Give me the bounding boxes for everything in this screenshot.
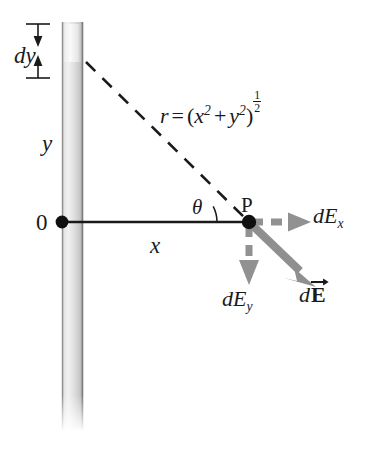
dEx-label: dEx	[313, 205, 344, 231]
dE-E-glyph: E	[311, 282, 326, 307]
r-y-exponent: 2	[239, 103, 246, 118]
dEy-vector-arrow	[239, 226, 259, 285]
origin-label: 0	[36, 211, 48, 234]
origin-marker	[56, 216, 69, 229]
plus-sign: +	[211, 103, 229, 128]
distance-line-r	[86, 62, 247, 220]
dEx-E: E	[324, 203, 337, 228]
dEy-label: dEy	[222, 288, 253, 314]
fraction-denominator: 2	[253, 102, 261, 114]
dy-label: dy	[14, 44, 36, 67]
physics-diagram-figure: dy y 0 x r=(x2+y2)12 θ P dEx dEy dE	[0, 0, 373, 463]
dEy-subscript: y	[246, 299, 252, 314]
r-y-term: y	[229, 103, 239, 128]
dE-d: d	[299, 282, 310, 307]
r-x-term: x	[194, 103, 204, 128]
dEy-d: d	[222, 286, 233, 311]
r-equation-label: r=(x2+y2)12	[160, 92, 261, 127]
y-axis-label: y	[42, 132, 52, 155]
dEx-subscript: x	[337, 216, 343, 231]
fraction-numerator: 1	[253, 89, 261, 102]
dEx-d: d	[313, 203, 324, 228]
dEy-E: E	[233, 286, 246, 311]
r-symbol: r	[160, 103, 169, 128]
diagram-canvas	[0, 0, 373, 463]
close-paren: )	[246, 103, 253, 128]
dE-resultant-label: dE	[299, 284, 327, 306]
equals-sign: =	[169, 103, 187, 128]
dE-vector-E: E	[310, 284, 327, 306]
theta-angle-label: θ	[192, 197, 202, 218]
x-distance-label: x	[150, 234, 160, 257]
dE-resultant-vector-arrow	[251, 224, 316, 287]
r-x-exponent: 2	[204, 103, 211, 118]
angle-theta-arc	[213, 206, 217, 222]
point-p-label: P	[241, 195, 253, 216]
one-half-exponent: 12	[253, 89, 261, 114]
charge-element-dy	[62, 24, 83, 62]
